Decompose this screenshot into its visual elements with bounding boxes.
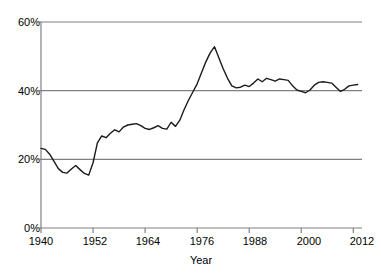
gridlines	[41, 22, 362, 159]
axis-ticks	[36, 22, 353, 233]
chart-container: 60% 40% 20% 0% 1940 1952 1964 1976 1988 …	[0, 0, 381, 276]
data-series-line	[41, 47, 358, 175]
plot-area	[0, 0, 381, 276]
